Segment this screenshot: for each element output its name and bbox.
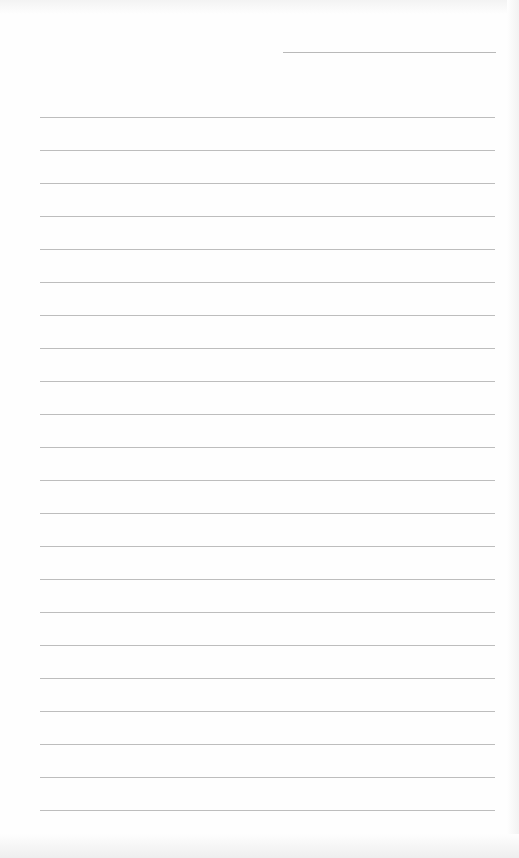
ruled-line [40,777,495,778]
scan-shadow-bottom [0,834,519,858]
ruled-line [40,480,495,481]
ruled-line [40,249,495,250]
ruled-line [40,513,495,514]
ruled-line [40,150,495,151]
ruled-line [40,315,495,316]
ruled-line [40,348,495,349]
ruled-line [40,183,495,184]
ruled-line [40,711,495,712]
ruled-line [40,579,495,580]
ruled-line [40,645,495,646]
ruled-line [40,447,495,448]
scan-shadow-top [0,0,519,14]
ruled-line [40,117,495,118]
lined-paper-sheet [0,0,519,858]
header-write-line [283,52,496,53]
ruled-line [40,744,495,745]
scan-shadow-right [507,0,519,858]
ruled-line [40,381,495,382]
ruled-line [40,414,495,415]
ruled-line [40,216,495,217]
ruled-line [40,546,495,547]
ruled-line [40,282,495,283]
ruled-line [40,810,495,811]
ruled-line [40,612,495,613]
ruled-line [40,678,495,679]
